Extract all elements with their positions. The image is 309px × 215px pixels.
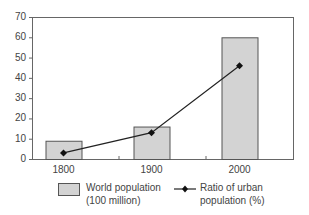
y-tick-label: 50 bbox=[8, 52, 26, 63]
y-tick-label: 70 bbox=[8, 11, 26, 22]
y-tick-label: 0 bbox=[8, 153, 26, 164]
chart: 010203040506070 180019002000 World popul… bbox=[0, 0, 309, 215]
y-tick-label: 30 bbox=[8, 92, 26, 103]
legend-bar-swatch bbox=[58, 183, 80, 196]
x-tick-label: 1800 bbox=[44, 164, 84, 175]
y-tick-label: 60 bbox=[8, 31, 26, 42]
bar bbox=[222, 38, 258, 160]
x-tick-label: 2000 bbox=[220, 164, 260, 175]
legend-line-marker-icon bbox=[174, 184, 196, 194]
y-tick-label: 20 bbox=[8, 112, 26, 123]
y-tick-label: 10 bbox=[8, 133, 26, 144]
x-tick-label: 1900 bbox=[132, 164, 172, 175]
legend-line-label: Ratio of urban population (%) bbox=[200, 181, 264, 207]
y-tick-label: 40 bbox=[8, 72, 26, 83]
legend-bar-label: World population (100 million) bbox=[86, 181, 161, 207]
